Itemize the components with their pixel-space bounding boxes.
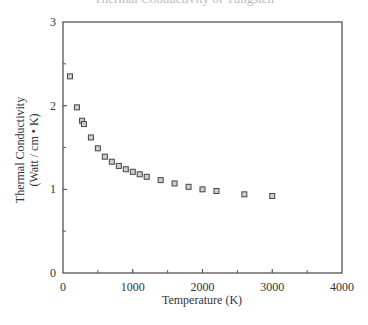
data-point-marker: [242, 192, 247, 197]
data-point-marker: [200, 187, 205, 192]
data-point-marker: [270, 194, 275, 199]
data-point-marker: [116, 163, 121, 168]
y-axis-label-line1: Thermal Conductivity: [13, 97, 27, 203]
data-point-marker: [81, 122, 86, 127]
x-tick-label: 2000: [191, 280, 215, 294]
data-point-marker: [158, 178, 163, 183]
data-point-marker: [130, 169, 135, 174]
x-tick-label: 4000: [330, 280, 354, 294]
data-point-marker: [95, 146, 100, 151]
data-points: [67, 74, 274, 199]
data-point-marker: [137, 172, 142, 177]
plot-frame: [63, 22, 342, 273]
x-tick-label: 0: [60, 280, 66, 294]
y-tick-label: 2: [50, 99, 56, 113]
y-tick-label: 1: [50, 182, 56, 196]
axes: 010002000300040000123: [50, 15, 354, 294]
data-point-marker: [186, 184, 191, 189]
scatter-chart: 010002000300040000123 Temperature (K) Th…: [0, 0, 368, 325]
x-tick-label: 3000: [260, 280, 284, 294]
data-point-marker: [67, 74, 72, 79]
x-tick-label: 1000: [121, 280, 145, 294]
data-point-marker: [123, 167, 128, 172]
y-tick-label: 3: [50, 15, 56, 29]
x-axis-label: Temperature (K): [162, 293, 242, 307]
data-point-marker: [109, 159, 114, 164]
data-point-marker: [74, 105, 79, 110]
data-point-marker: [102, 154, 107, 159]
data-point-marker: [144, 174, 149, 179]
data-point-marker: [172, 181, 177, 186]
data-point-marker: [88, 135, 93, 140]
y-tick-label: 0: [50, 266, 56, 280]
data-point-marker: [214, 189, 219, 194]
y-axis-label-line2: (Watt / cm • K): [27, 113, 41, 186]
